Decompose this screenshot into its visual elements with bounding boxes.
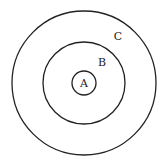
label-a: A <box>79 77 89 90</box>
label-b: B <box>98 56 106 69</box>
label-c: C <box>114 30 122 43</box>
concentric-circles-diagram: A B C <box>0 0 166 166</box>
